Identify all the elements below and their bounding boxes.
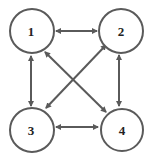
edge-2-3 <box>46 45 106 108</box>
node-4-label: 4 <box>119 123 126 138</box>
graph-diagram: 1 2 3 4 <box>0 0 152 157</box>
node-3-label: 3 <box>28 123 35 138</box>
graph-canvas: 1 2 3 4 <box>0 0 152 157</box>
node-2-label: 2 <box>118 24 125 39</box>
edge-1-4 <box>45 52 106 112</box>
node-1-label: 1 <box>28 24 35 39</box>
